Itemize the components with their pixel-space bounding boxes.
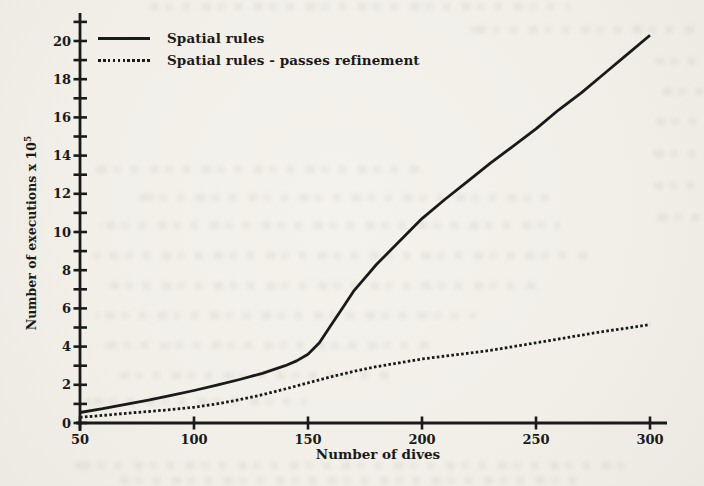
- y-tick-label: 14: [53, 148, 71, 163]
- y-tick-label: 8: [62, 263, 71, 278]
- y-tick-label: 20: [53, 34, 71, 49]
- y-axis-title-text: Number of executions x 10: [24, 142, 39, 330]
- legend: Spatial rules Spatial rules - passes ref…: [98, 27, 420, 71]
- y-axis-title: Number of executions x 105: [23, 136, 39, 330]
- y-tick-label: 12: [53, 186, 71, 201]
- executions-vs-dives-chart: 5010015020025030002468101214161820: [0, 0, 704, 486]
- legend-item-spatial-rules: Spatial rules: [98, 27, 420, 49]
- x-tick-label: 100: [180, 432, 207, 447]
- dotted-line-sample-icon: [98, 59, 150, 62]
- x-tick-label: 50: [71, 432, 89, 447]
- y-tick-label: 18: [53, 72, 71, 87]
- x-tick-label: 300: [636, 432, 663, 447]
- y-tick-label: 4: [62, 339, 71, 354]
- series-dotted-curve: [80, 325, 650, 418]
- x-tick-label: 250: [522, 432, 549, 447]
- y-tick-label: 16: [53, 110, 71, 125]
- legend-label: Spatial rules - passes refinement: [167, 52, 420, 68]
- y-axis-title-exponent: 5: [23, 136, 33, 142]
- y-tick-label: 6: [62, 301, 71, 316]
- x-tick-label: 200: [408, 432, 435, 447]
- y-tick-label: 2: [62, 377, 71, 392]
- x-tick-label: 150: [294, 432, 321, 447]
- scanned-page: 5010015020025030002468101214161820 Spati…: [0, 0, 704, 486]
- series-solid-curve: [80, 35, 650, 412]
- solid-line-sample-icon: [98, 37, 150, 40]
- y-tick-label: 0: [62, 416, 71, 431]
- y-tick-label: 10: [53, 225, 71, 240]
- x-axis-title: Number of dives: [316, 446, 440, 462]
- legend-item-passes-refinement: Spatial rules - passes refinement: [98, 49, 420, 71]
- legend-label: Spatial rules: [167, 30, 264, 46]
